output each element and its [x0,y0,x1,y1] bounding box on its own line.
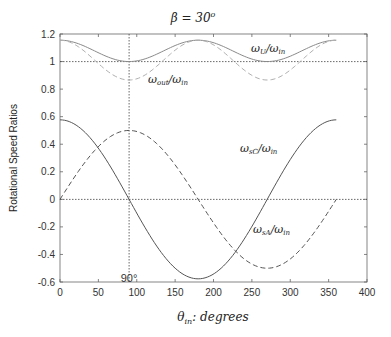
x-tick-label: 50 [93,287,105,298]
x-tick-label: 250 [244,287,261,298]
x-tick-label: 400 [359,287,376,298]
y-tick-label: 1 [49,56,55,67]
annotation-omega-sa: ωsA/ωin [253,223,291,237]
line-chart: β = 30o -0.6-0.4-0.200.20.40.60.811.2 05… [0,0,391,337]
y-tick-label: -0.6 [38,277,56,288]
y-tick-label: 0 [49,194,55,205]
x-tick-label: 150 [167,287,184,298]
y-tick-label: 1.2 [41,29,55,40]
series-omega-u [60,40,336,61]
y-tick-label: 0.6 [41,111,55,122]
annotation-omega-u: ωU/ωin [251,42,286,56]
y-axis-label: Rotational Speed Ratios [8,104,19,212]
annotation-omega-out: ωout/ωin [148,73,188,87]
x-tick-label: 0 [57,287,63,298]
y-tick-label: 0.8 [41,84,55,95]
series-omega-out [60,40,336,80]
plot-area [60,34,367,282]
annotation-90-degrees: 90° [121,272,138,284]
y-axis: -0.6-0.4-0.200.20.40.60.811.2 [38,29,367,288]
x-tick-label: 350 [320,287,337,298]
x-axis-label: θin: degrees [177,310,248,326]
y-tick-label: 0.2 [41,166,55,177]
annotation-omega-sc: ωsC/ωin [240,142,278,156]
x-tick-label: 100 [128,287,145,298]
y-tick-label: -0.4 [38,249,56,260]
y-tick-label: 0.4 [41,139,55,150]
x-tick-label: 200 [205,287,222,298]
x-tick-label: 300 [282,287,299,298]
y-tick-label: -0.2 [38,221,56,232]
x-axis: 050100150200250300350400 [57,34,376,298]
chart-title: β = 30o [170,10,216,25]
